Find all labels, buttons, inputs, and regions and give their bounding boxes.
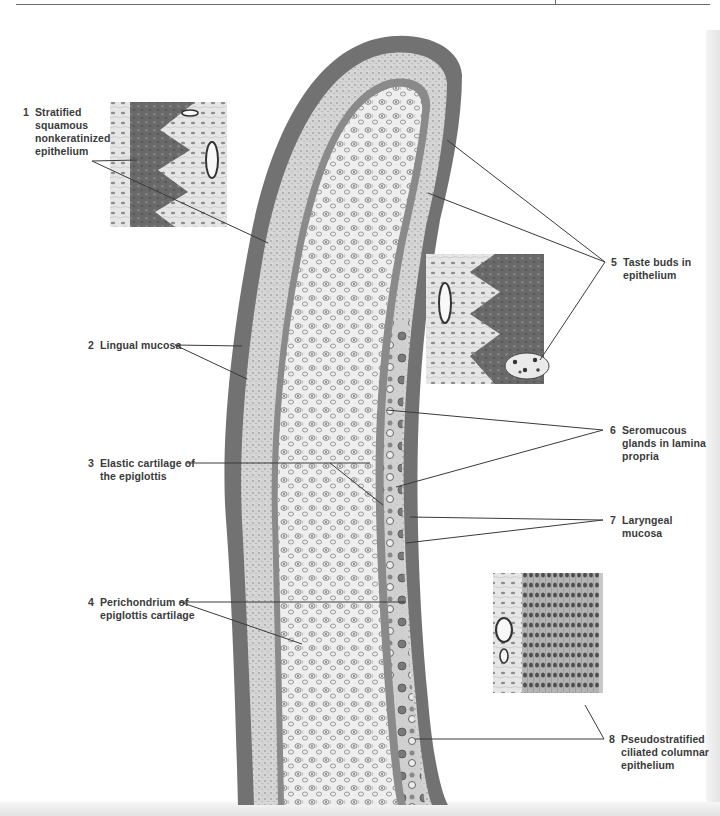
label-6-seromucous-glands: 6 Seromucous glands in lamina propria [622,424,706,463]
stratified-squamous-inset [110,102,227,227]
leader-8b [585,705,604,739]
taste-bud-inset [426,254,549,384]
leader-5a [447,140,605,262]
leader-2a [175,345,242,346]
pseudostratified-inset [493,573,603,693]
leader-7a [410,517,603,520]
label-1-stratified-squamous: 1 Stratified squamous nonkeratinized epi… [35,106,111,158]
leader-6b [396,430,603,487]
leader-5c [540,262,605,360]
leader-7b [406,520,603,543]
label-2-lingual-mucosa: 2 Lingual mucosa [100,339,181,352]
label-3-elastic-cartilage: 3 Elastic cartilage of the epiglottis [100,457,195,483]
label-7-laryngeal-mucosa: 7 Laryngeal mucosa [622,514,673,540]
leader-6a [387,410,603,430]
label-4-perichondrium: 4 Perichondrium of epiglottis cartilage [100,596,195,622]
label-5-taste-buds: 5 Taste buds in epithelium [623,256,691,282]
leader-5b [428,193,605,262]
label-8-pseudostratified: 8 Pseudostratified ciliated columnar epi… [621,733,709,772]
